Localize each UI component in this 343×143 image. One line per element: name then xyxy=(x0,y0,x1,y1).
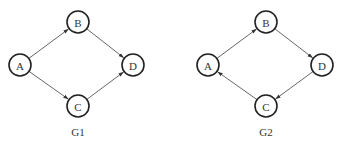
node-g2-b: B xyxy=(255,11,277,33)
node-g2-a: A xyxy=(197,54,219,76)
edge-g2-d-to-c xyxy=(275,71,313,99)
node-label: A xyxy=(16,60,24,72)
node-label: D xyxy=(129,60,137,72)
node-g1-d: D xyxy=(122,54,144,76)
edge-g2-c-to-a xyxy=(217,72,257,100)
node-label: A xyxy=(204,60,212,72)
node-label: C xyxy=(262,101,269,113)
node-g1-a: A xyxy=(9,54,31,76)
edge-g1-c-to-d xyxy=(87,72,124,100)
edge-g2-b-to-d xyxy=(275,29,313,58)
node-g1-c: C xyxy=(67,95,89,117)
graph-g1: ABCDG1 xyxy=(9,11,144,138)
node-g2-d: D xyxy=(311,54,333,76)
node-label: D xyxy=(318,60,326,72)
edge-g2-a-to-b xyxy=(217,29,257,59)
edge-g1-b-to-d xyxy=(87,29,124,58)
node-g1-b: B xyxy=(67,11,89,33)
node-label: B xyxy=(74,17,81,29)
graph-caption-g2: G2 xyxy=(259,126,272,138)
graph-g2: ABCDG2 xyxy=(197,11,333,138)
edge-g1-a-to-c xyxy=(29,71,69,99)
node-label: B xyxy=(262,17,269,29)
diagram-canvas: ABCDG1 ABCDG2 xyxy=(0,0,343,143)
node-label: C xyxy=(74,101,81,113)
edge-g1-a-to-b xyxy=(29,29,69,59)
graph-caption-g1: G1 xyxy=(71,126,84,138)
node-g2-c: C xyxy=(255,95,277,117)
